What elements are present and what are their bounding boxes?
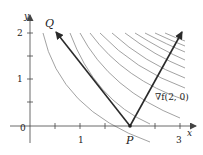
gradient-label: ∇f(2, 0) <box>155 92 189 102</box>
gradient-diagram: y x 0 1 3 1 2 Q P ∇f(2, 0) <box>0 0 203 155</box>
y-axis-label: y <box>23 11 30 21</box>
x-axis-label: x <box>187 128 192 138</box>
y-tick-label-2: 2 <box>17 28 23 38</box>
point-Q-label: Q <box>45 17 54 30</box>
point-P-label: P <box>125 134 134 147</box>
point-P-dot <box>128 124 132 128</box>
x-tick-label-3: 3 <box>176 135 182 145</box>
origin-label: 0 <box>20 123 26 133</box>
gradient-vector <box>130 32 182 126</box>
diagram-canvas: y x 0 1 3 1 2 Q P ∇f(2, 0) <box>0 0 203 155</box>
y-tick-label-1: 1 <box>17 74 23 84</box>
x-tick-label-1: 1 <box>78 135 84 145</box>
